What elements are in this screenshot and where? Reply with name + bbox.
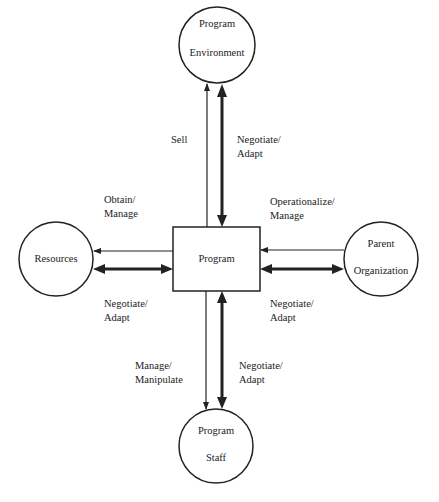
arrowhead-right xyxy=(161,264,173,274)
edge-label-right-negotiate: Negotiate/ Adapt xyxy=(270,297,314,325)
node-label-staff-1: Program xyxy=(176,424,256,438)
edge-label-manage-manipulate: Manage/ Manipulate xyxy=(135,359,183,387)
node-parent-organization xyxy=(344,222,418,296)
edge-label-sell: Sell xyxy=(171,133,187,147)
node-label-parent-2: Organization xyxy=(336,264,426,278)
node-label-staff-2: Staff xyxy=(176,451,256,465)
node-label-environment-2: Environment xyxy=(177,46,257,60)
arrowhead-up xyxy=(217,84,227,97)
arrowhead-up xyxy=(217,291,227,303)
node-label-resources: Resources xyxy=(16,252,96,266)
arrowhead-down xyxy=(217,215,227,227)
edge-label-bottom-negotiate: Negotiate/ Adapt xyxy=(239,359,283,387)
node-label-environment-1: Program xyxy=(177,17,257,31)
center-label-program: Program xyxy=(173,252,260,266)
node-program-staff xyxy=(179,409,253,483)
edge-label-operationalize: Operationalize/ Manage xyxy=(270,195,335,223)
arrowhead-left xyxy=(260,264,272,274)
node-label-parent-1: Parent xyxy=(341,237,421,251)
arrowhead-down xyxy=(217,397,227,409)
edge-label-top-negotiate: Negotiate/ Adapt xyxy=(237,133,281,161)
edge-label-obtain-manage: Obtain/ Manage xyxy=(104,193,138,221)
edge-label-left-negotiate: Negotiate/ Adapt xyxy=(104,297,148,325)
